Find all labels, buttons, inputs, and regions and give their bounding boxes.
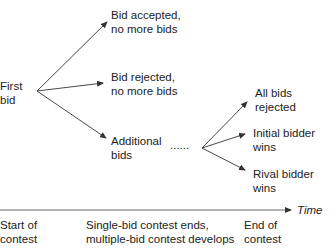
ellipsis: ...... — [170, 138, 189, 152]
marker-middle: Single-bid contest ends, multiple-bid co… — [86, 218, 234, 246]
marker-start: Start of contest — [0, 218, 37, 246]
node-bid-accepted: Bid accepted, no more bids — [111, 8, 181, 36]
node-rival-wins: Rival bidder wins — [253, 167, 314, 195]
node-first-bid: First bid — [0, 79, 22, 107]
arrow-to-bid-accepted — [37, 22, 107, 91]
time-axis-label: Time — [297, 203, 322, 217]
node-bid-rejected: Bid rejected, no more bids — [111, 70, 177, 98]
node-additional-bids: Additional bids — [111, 134, 162, 162]
arrow-to-additional-bids — [37, 91, 106, 138]
arrow-to-bid-rejected — [37, 83, 103, 91]
marker-end: End of contest — [244, 218, 281, 246]
node-initial-wins: Initial bidder wins — [253, 126, 315, 154]
node-all-rejected: All bids rejected — [255, 86, 296, 114]
arrow-to-rival-wins — [202, 148, 245, 170]
